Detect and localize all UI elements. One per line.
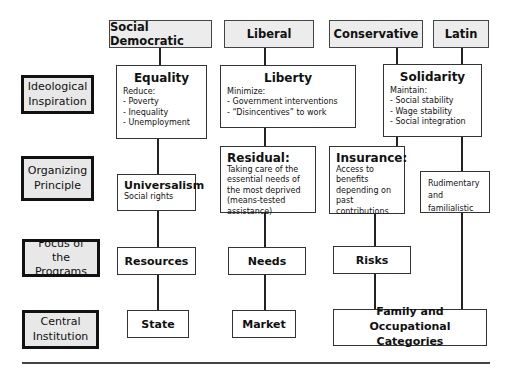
resources-box: Resources [117, 247, 196, 275]
equality-item: - Inequality [123, 108, 200, 118]
connector-socdem-2 [157, 139, 159, 174]
rudimentary-line: Rudimentary [428, 178, 482, 190]
rudimentary-line: familialistic [428, 203, 482, 215]
market-box: Market [232, 310, 296, 338]
row-label-focus: Focus of the Programs [22, 239, 100, 277]
liberty-intro: Minimize: [227, 87, 349, 97]
row-label-organizing: Organizing Principle [21, 156, 94, 201]
rudimentary-line: and [428, 190, 482, 202]
connector-conservative-3 [374, 214, 376, 246]
insurance-box: Insurance: Access to benefits depending … [329, 146, 405, 214]
liberty-title: Liberty [227, 71, 349, 85]
connector-socdem-1 [159, 47, 161, 65]
connector-latin-2 [461, 137, 463, 171]
liberty-box: Liberty Minimize: - Government intervent… [220, 65, 356, 128]
solidarity-intro: Maintain: [390, 86, 475, 96]
row-label-focus-text: Focus of the Programs [30, 237, 92, 280]
solidarity-box: Solidarity Maintain: - Social stability … [383, 64, 482, 137]
solidarity-title: Solidarity [390, 70, 475, 84]
connector-liberal-4 [264, 274, 266, 310]
residual-desc: Taking care of the essential needs of th… [227, 165, 309, 217]
universalism-box: Universalism Social rights [117, 174, 196, 211]
equality-title: Equality [123, 71, 200, 85]
equality-item: - Poverty [123, 97, 200, 107]
row-label-central-text: Central Institution [31, 315, 91, 344]
header-latin: Latin [433, 20, 489, 48]
connector-socdem-4 [157, 274, 159, 310]
solidarity-item: - Social integration [390, 117, 475, 127]
universalism-desc: Social rights [124, 192, 189, 202]
residual-title: Residual: [227, 151, 309, 165]
equality-item: - Unemployment [123, 118, 200, 128]
risks-box: Risks [333, 246, 411, 274]
insurance-desc: Access to benefits depending on past con… [336, 165, 398, 217]
connector-conservative-4 [374, 273, 376, 309]
bottom-rule [22, 362, 490, 364]
insurance-title: Insurance: [336, 151, 398, 165]
equality-box: Equality Reduce: - Poverty - Inequality … [116, 65, 207, 139]
connector-conservative-1 [396, 47, 398, 64]
row-label-ideological-text: Ideological Inspiration [28, 80, 88, 109]
row-label-central: Central Institution [22, 310, 99, 349]
solidarity-item: - Social stability [390, 96, 475, 106]
needs-box: Needs [228, 247, 306, 275]
liberty-item: - Government interventions [227, 97, 349, 107]
connector-latin-3 [461, 213, 463, 309]
family-box: Family and Occupational Categories [333, 309, 487, 346]
row-label-organizing-text: Organizing Principle [28, 164, 88, 193]
connector-latin-1 [461, 47, 463, 64]
liberty-item: - “Disincentives” to work [227, 108, 349, 118]
connector-liberal-3 [264, 213, 266, 247]
row-label-ideological: Ideological Inspiration [21, 75, 94, 114]
header-social-democratic: Social Democratic [109, 20, 212, 48]
connector-liberal-2 [264, 128, 266, 146]
connector-liberal-1 [264, 47, 266, 65]
state-box: State [127, 310, 189, 338]
residual-box: Residual: Taking care of the essential n… [220, 146, 316, 213]
connector-conservative-2 [396, 137, 398, 146]
universalism-title: Universalism [124, 179, 189, 192]
connector-socdem-3 [157, 211, 159, 247]
solidarity-item: - Wage stability [390, 107, 475, 117]
equality-intro: Reduce: [123, 87, 200, 97]
header-conservative: Conservative [329, 20, 423, 48]
header-liberal: Liberal [224, 20, 314, 48]
rudimentary-box: Rudimentary and familialistic [420, 171, 490, 213]
